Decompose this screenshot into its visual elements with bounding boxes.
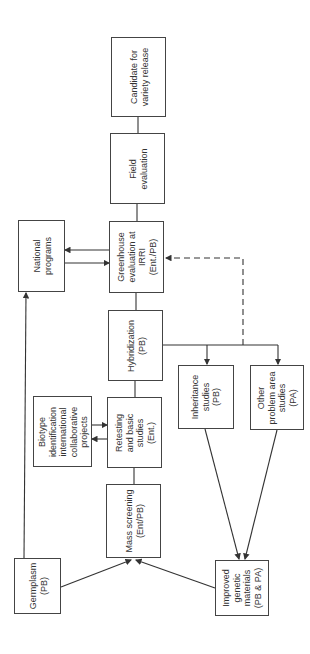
node-candidate-for-variety-release: Candidate for variety release <box>111 37 166 117</box>
node-mass-screening: Mass screening (Ent/PB) <box>106 484 161 558</box>
node-label: Biotype identification international col… <box>36 406 89 457</box>
node-greenhouse-evaluation: Greenhouse evaluation at IRRI (Ent./PB) <box>109 221 164 293</box>
node-other-problem-area-studies: Other problem area studies (PA) <box>250 365 304 430</box>
node-field-evaluation: Field evaluation <box>110 133 165 204</box>
node-germplasm: Germplasm (PB) <box>14 558 61 614</box>
node-national-programs: National programs <box>18 220 65 292</box>
node-hybridization: Hybridization (PB) <box>108 310 163 381</box>
node-label: National programs <box>31 237 52 275</box>
node-label: Mass screening (Ent/PB) <box>123 489 144 552</box>
node-biotype-identification: Biotype identification international col… <box>33 396 92 467</box>
node-label: Improved genetic materials (PB & PA) <box>221 568 263 608</box>
node-label: Other problem area studies (PA) <box>256 371 298 424</box>
node-label: Germplasm (PB) <box>27 563 48 610</box>
node-label: Inheritance studies (PB) <box>190 375 222 420</box>
node-label: Retesting and basic studies (Ent.) <box>114 413 156 452</box>
node-retesting: Retesting and basic studies (Ent.) <box>107 397 162 468</box>
node-improved-genetic-materials: Improved genetic materials (PB & PA) <box>215 560 269 616</box>
node-inheritance-studies: Inheritance studies (PB) <box>178 365 234 429</box>
node-label: Hybridization (PB) <box>125 319 146 371</box>
node-label: Candidate for variety release <box>128 48 149 107</box>
node-label: Field evaluation <box>127 148 148 189</box>
node-label: Greenhouse evaluation at IRRI (Ent./PB) <box>116 231 158 282</box>
